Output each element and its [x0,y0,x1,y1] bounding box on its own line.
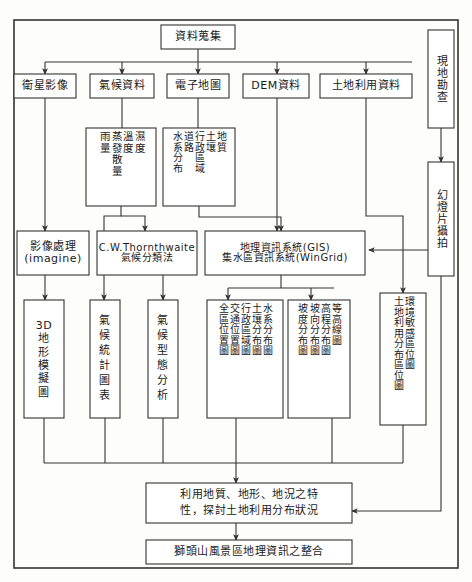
maps-b-2: 坡向分布圖 [308,303,319,356]
box-field-survey [428,30,454,128]
link-landuse-down [366,98,403,293]
maps-c-1: 土地利用分布區位圖 [392,296,403,391]
maps-b-columns: 等高線圖 高程分布圖 坡向分布圖 坡度分布圖 [288,303,350,415]
box-image-processing [17,231,89,275]
emap-param-4: 水系分布 [171,131,182,173]
maps-c-columns: 環境敏感區位圖 土地利用分布區位圖 [380,296,426,422]
box-satellite [14,74,76,98]
box-data-collection [161,25,235,49]
climate-param-2: 蒸發散量 [109,131,121,177]
climate-param-0: 濕度 [133,131,145,154]
maps-a-4: 全區位置圖 [217,303,228,356]
emap-params-columns: 地質 土壤 行政區域 道路 水系分布 [163,131,235,205]
maps-a-columns: 水系分布圖 土壤分布圖 行政區域圖 交通位置圖 全區位置圖 [207,303,283,415]
emap-param-2: 行政區域 [193,131,204,173]
maps-c-0: 環境敏感區位圖 [403,296,414,370]
box-thornthwaite [97,231,197,275]
maps-b-1: 高程分布圖 [319,303,330,356]
maps-a-0: 水系分布圖 [262,303,273,356]
box-3d-terrain [24,300,64,418]
maps-a-3: 交通位置圖 [228,303,239,356]
maps-b-3: 坡度分布圖 [297,303,308,356]
maps-a-2: 行政區域圖 [239,303,250,356]
box-climate [90,74,154,98]
box-climate-type [148,300,178,418]
maps-b-0: 等高線圖 [330,303,341,345]
box-dem [243,74,309,98]
climate-params-columns: 濕度 溫度 蒸發散量 雨量 [86,131,156,205]
link-climparams-thornthwaite [121,216,145,231]
box-climate-stats [90,300,120,418]
emap-param-1: 土壤 [205,131,216,152]
maps-a-1: 土壤分布圖 [251,303,262,356]
emap-param-0: 地質 [216,131,227,152]
link-emapparams-gis [199,206,281,231]
box-analysis [146,483,352,523]
climate-param-3: 雨量 [98,131,110,154]
box-gis [205,231,365,275]
flowchart-diagram: 資料蒐集 衛星影像 氣候資料 電子地圖 DEM資料 土地利用資料 現地勘查 幻燈… [0,0,472,582]
box-slide-photo [428,162,454,276]
flowchart-svg [0,0,472,582]
climate-param-1: 溫度 [121,131,133,154]
box-integration [146,540,352,564]
box-emap [167,74,229,98]
box-landuse [320,74,412,98]
emap-param-3: 道路 [182,131,193,152]
